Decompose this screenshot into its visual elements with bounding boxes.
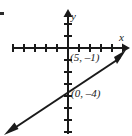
coordinate-plane-drawing [0, 0, 132, 136]
x-axis-label: x [119, 31, 124, 43]
x-axis-arrowhead [122, 44, 130, 53]
point-label-5-neg1: (5, –1) [70, 51, 99, 63]
graph-figure: (5, –1) (0, –4) x y [0, 0, 132, 136]
line-arrowhead-lower-left [4, 123, 19, 136]
y-axis-group [64, 17, 72, 134]
point-label-0-neg4: (0, –4) [71, 87, 100, 99]
y-axis-label: y [71, 10, 76, 22]
